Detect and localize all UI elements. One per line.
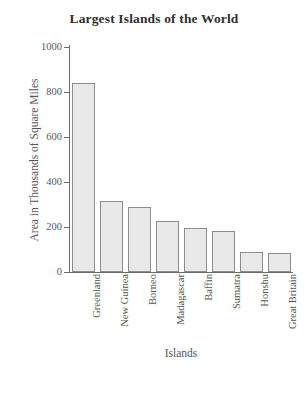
x-tick-label: Sumatra [230,274,244,352]
bar-chart: Largest Islands of the World 02004006008… [0,0,308,395]
x-axis-category-labels: GreenlandNew GuineaBorneoMadagascarBaffi… [69,274,293,352]
bar-greenland [72,83,95,272]
x-tick-label: Baffin [202,274,216,352]
x-axis-line [69,272,293,273]
chart-title: Largest Islands of the World [0,11,308,27]
bar-borneo [128,207,151,272]
x-tick-label: Borneo [146,274,160,352]
y-axis-title: Area in Thousands of Square Miles [26,45,42,275]
bar-new-guinea [100,201,123,272]
bar-sumatra [212,231,235,272]
x-tick-label: New Guinea [118,274,132,352]
bar-madagascar [156,221,179,272]
bar-honshu [240,252,263,272]
bars-layer [69,47,293,272]
x-tick-label: Greenland [90,274,104,352]
bar-great-britain [268,253,291,272]
x-tick-label: Honshu [258,274,272,352]
y-tick-mark [64,272,69,273]
x-tick-label: Great Britain [286,274,300,352]
y-axis-title-wrap: Area in Thousands of Square Miles [26,45,42,275]
bar-baffin [184,228,207,272]
x-tick-label: Madagascar [174,274,188,352]
x-axis-title: Islands [69,347,293,359]
